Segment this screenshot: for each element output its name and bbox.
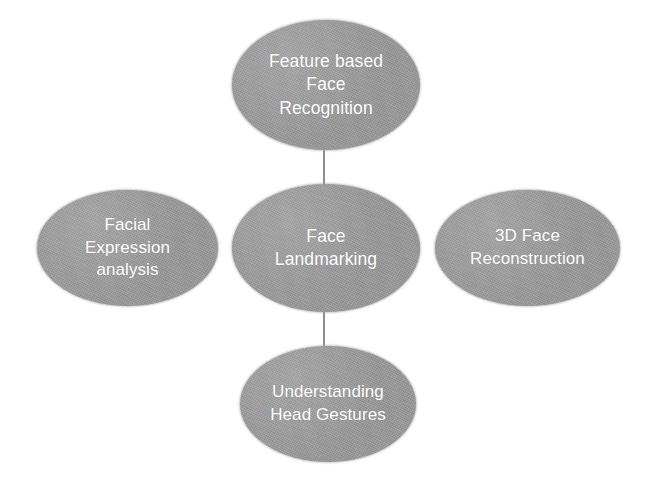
connector-center-to-bottom (323, 310, 325, 348)
node-understanding-head-gestures[interactable]: Understanding Head Gestures (240, 346, 416, 462)
node-label-facial-expression-analysis: Facial Expression analysis (77, 214, 178, 282)
node-label-understanding-head-gestures: Understanding Head Gestures (262, 381, 394, 427)
node-face-landmarking[interactable]: Face Landmarking (232, 184, 420, 312)
diagram-canvas: Feature based Face Recognition Facial Ex… (0, 0, 648, 487)
node-label-feature-based-face-recognition: Feature based Face Recognition (261, 50, 391, 120)
node-3d-face-reconstruction[interactable]: 3D Face Reconstruction (435, 190, 620, 306)
connector-top-to-center (323, 147, 325, 186)
node-label-3d-face-reconstruction: 3D Face Reconstruction (462, 225, 593, 271)
node-feature-based-face-recognition[interactable]: Feature based Face Recognition (232, 20, 420, 150)
node-label-face-landmarking: Face Landmarking (267, 225, 385, 272)
node-facial-expression-analysis[interactable]: Facial Expression analysis (37, 190, 218, 306)
